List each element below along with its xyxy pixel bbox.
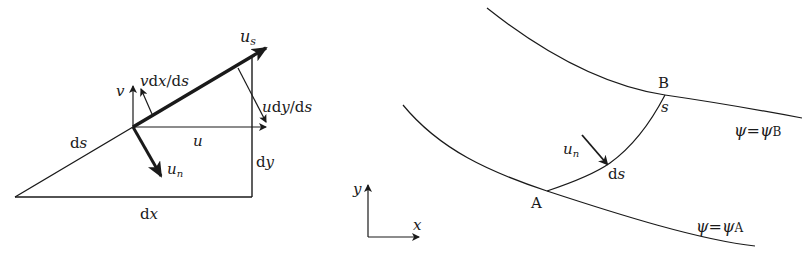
psi-a-label: ψ=ψA — [696, 217, 744, 236]
udyds-label: udy/ds — [262, 98, 312, 116]
point-a-label: A — [530, 194, 542, 212]
point-b-label: B — [658, 74, 669, 92]
right-diagram: B s ψ=ψB un ds A ψ=ψA y x — [352, 8, 802, 246]
ds-label-right: ds — [608, 165, 626, 183]
psi-b-label: ψ=ψB — [734, 121, 782, 140]
vdxds-label: vdx/ds — [140, 72, 189, 90]
vdxds-arrow — [141, 89, 152, 114]
un-label-right: un — [563, 140, 579, 159]
dy-label: dy — [256, 153, 275, 171]
axes: y x — [352, 180, 422, 237]
x-axis-label: x — [413, 216, 422, 234]
left-diagram: us vdx/ds v udy/ds u ds un dy dx — [15, 27, 312, 223]
u-label: u — [193, 132, 203, 150]
y-axis-label: y — [352, 180, 362, 198]
v-label: v — [116, 82, 125, 100]
un-label: un — [167, 160, 183, 179]
s-label: s — [661, 98, 669, 116]
us-label: us — [240, 27, 256, 48]
un-arrow — [133, 127, 161, 176]
figure: us vdx/ds v udy/ds u ds un dy dx B s ψ=ψ… — [0, 0, 808, 263]
dx-label: dx — [140, 205, 159, 223]
un-arrow-right — [582, 135, 607, 164]
ds-label: ds — [70, 134, 88, 152]
streamline-b — [487, 8, 802, 118]
